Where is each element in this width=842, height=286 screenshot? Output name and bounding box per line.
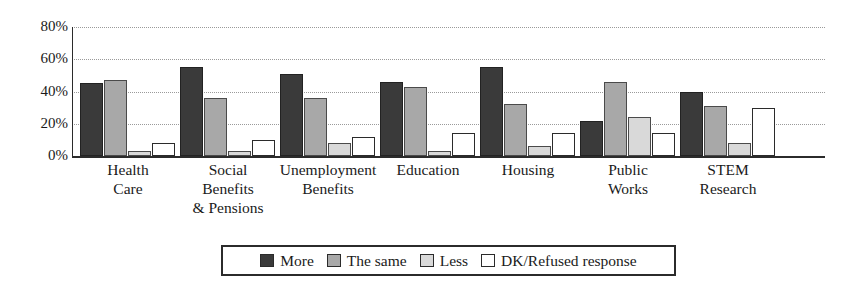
legend-item[interactable]: Less [420, 253, 468, 269]
bar-groups [72, 27, 825, 156]
bar-less [128, 151, 151, 156]
bar-less [628, 117, 651, 156]
grouped-bar-chart: 0%20%40%60%80% Health CareSocial Benefit… [0, 0, 842, 286]
bar-more [380, 82, 403, 156]
bar-more [180, 67, 203, 156]
bar-less [328, 143, 351, 156]
bar-dk-refused-response [652, 133, 675, 156]
x-axis-baseline [72, 156, 825, 158]
bar-more [580, 121, 603, 156]
bar-dk-refused-response [352, 137, 375, 156]
legend-label: The same [347, 253, 407, 269]
legend-item[interactable]: The same [327, 253, 407, 269]
bar-less [528, 146, 551, 156]
y-tick-label: 60% [6, 51, 68, 66]
y-tick-label: 40% [6, 84, 68, 99]
bar-the-same [504, 104, 527, 156]
legend-item[interactable]: More [260, 253, 314, 269]
bar-dk-refused-response [152, 143, 175, 156]
legend-item[interactable]: DK/Refused response [481, 253, 637, 269]
bar-group [180, 27, 276, 156]
bar-more [480, 67, 503, 156]
bar-less [428, 151, 451, 156]
bar-the-same [104, 80, 127, 156]
legend-swatch-icon [327, 254, 341, 267]
bar-less [228, 151, 251, 156]
chart-legend: MoreThe sameLessDK/Refused response [221, 245, 676, 276]
bar-less [728, 143, 751, 156]
bar-the-same [404, 87, 427, 156]
bar-dk-refused-response [552, 133, 575, 156]
bar-group [580, 27, 676, 156]
bar-group [280, 27, 376, 156]
x-axis-category-labels: Health CareSocial Benefits & PensionsUne… [72, 160, 825, 230]
legend-swatch-icon [420, 254, 434, 267]
bar-dk-refused-response [452, 133, 475, 156]
y-tick-label: 20% [6, 116, 68, 131]
legend-label: More [280, 253, 314, 269]
bar-the-same [604, 82, 627, 156]
bar-group [480, 27, 576, 156]
bar-group [80, 27, 176, 156]
bar-more [280, 74, 303, 156]
bar-group [680, 27, 776, 156]
legend-label: Less [440, 253, 468, 269]
bar-the-same [704, 106, 727, 156]
bar-more [680, 92, 703, 157]
legend-swatch-icon [260, 254, 274, 267]
y-axis-tick-labels: 0%20%40%60%80% [0, 0, 68, 286]
bar-dk-refused-response [252, 140, 275, 156]
legend-swatch-icon [481, 254, 495, 267]
bar-more [80, 83, 103, 156]
bar-the-same [204, 98, 227, 156]
legend-label: DK/Refused response [501, 253, 637, 269]
bar-dk-refused-response [752, 108, 775, 156]
bar-the-same [304, 98, 327, 156]
x-axis-label: STEM Research [658, 160, 798, 198]
bar-group [380, 27, 476, 156]
y-tick-label: 80% [6, 19, 68, 34]
